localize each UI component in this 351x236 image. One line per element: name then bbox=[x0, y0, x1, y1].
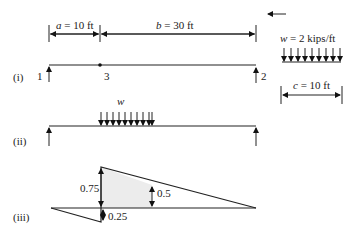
influence-line-diagram: a = 10 ft b = 30 ft w = 2 kips/ft c = 10… bbox=[0, 0, 351, 236]
dimension-a-label: a = 10 ft bbox=[56, 19, 94, 31]
panel-iii-influence-line: (iii) 0.75 0.5 0.25 bbox=[13, 167, 256, 224]
node-3-label: 3 bbox=[104, 70, 110, 82]
node-1-label: 1 bbox=[37, 70, 43, 82]
panel-ii-beam: (ii) w bbox=[13, 95, 256, 148]
point-3-dot bbox=[98, 63, 102, 67]
ordinate-025-label: 0.25 bbox=[108, 210, 128, 222]
node-2-label: 2 bbox=[261, 70, 267, 82]
dimension-a-b: a = 10 ft b = 30 ft bbox=[49, 19, 256, 42]
panel-ii-label: (ii) bbox=[13, 135, 27, 148]
ordinate-05-label: 0.5 bbox=[157, 187, 171, 199]
dimension-b-label: b = 30 ft bbox=[156, 19, 194, 31]
dimension-c-label: c = 10 ft bbox=[293, 79, 330, 91]
ordinate-075-label: 0.75 bbox=[80, 182, 100, 194]
uniform-load-legend: w = 2 kips/ft c = 10 ft bbox=[280, 32, 342, 104]
panel-iii-label: (iii) bbox=[13, 211, 30, 224]
load-arrows-icon bbox=[284, 48, 340, 61]
panel-i-label: (i) bbox=[13, 71, 24, 84]
panel-ii-load-arrows-icon bbox=[101, 112, 152, 125]
panel-ii-w-label: w bbox=[117, 95, 125, 107]
panel-i-beam: (i) 1 3 2 bbox=[13, 63, 267, 84]
load-w-label: w = 2 kips/ft bbox=[280, 32, 335, 44]
